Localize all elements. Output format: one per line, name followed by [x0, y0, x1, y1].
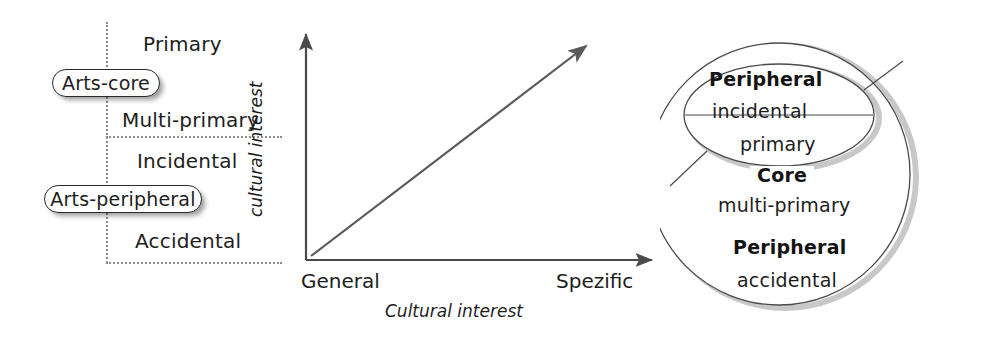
- label-incidental: incidental: [712, 102, 807, 121]
- label-peripheral-bottom: Peripheral: [733, 238, 846, 257]
- label-multi-primary: multi-primary: [718, 196, 850, 215]
- label-accidental: accidental: [737, 271, 837, 290]
- cultural-interest-chart: cultural interest General Spezific Cultu…: [0, 0, 700, 341]
- label-peripheral-top: Peripheral: [709, 70, 822, 89]
- core-periphery-diagram: Peripheral incidental primary Core multi…: [660, 0, 997, 341]
- figure-root: Primary Multi-primary Incidental Acciden…: [0, 0, 997, 341]
- chart-x-tick-general: General: [301, 271, 380, 291]
- chart-x-axis-title: Cultural interest: [385, 303, 523, 320]
- label-core: Core: [750, 166, 814, 185]
- chart-trend-line: [311, 46, 586, 256]
- chart-x-tick-spezific: Spezific: [556, 271, 633, 291]
- chart-y-axis-title: cultural interest: [248, 82, 265, 217]
- label-primary: primary: [740, 135, 816, 154]
